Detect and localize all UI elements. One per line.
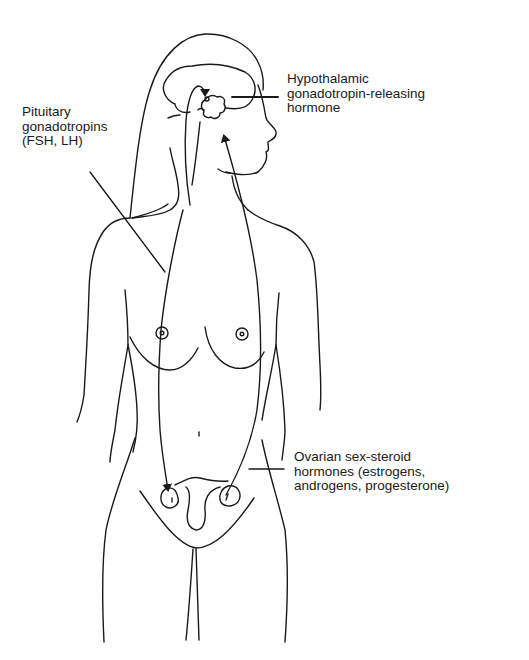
inner-leg-right — [196, 549, 199, 640]
hair-back — [132, 148, 179, 218]
pituitary-leader-line — [90, 172, 165, 272]
right-torso-side — [276, 293, 285, 460]
label-line: androgens, progesterone) — [294, 479, 449, 494]
ovary-to-hypothalamus-arrow — [224, 136, 260, 495]
left-hip-leg — [103, 438, 135, 642]
left-shoulder — [77, 218, 130, 422]
hormone-axis-diagram: Hypothalamic gonadotropin-releasing horm… — [0, 0, 529, 660]
right-areola — [236, 328, 248, 340]
label-line: hormones (estrogens, — [294, 465, 449, 480]
ovarian-hormones-label: Ovarian sex-steroid hormones (estrogens,… — [294, 450, 449, 494]
face-profile — [226, 85, 276, 175]
body-outline-figure — [0, 0, 529, 660]
uterus — [175, 477, 228, 530]
label-line: Ovarian sex-steroid — [294, 450, 449, 465]
pituitary-descend — [192, 122, 200, 185]
hair-outline — [130, 34, 263, 218]
label-line: gonadotropins — [22, 120, 108, 135]
left-torso-side — [110, 290, 128, 462]
label-line: (FSH, LH) — [22, 134, 108, 149]
right-hip-leg — [262, 440, 287, 642]
brain-outline — [163, 64, 255, 112]
right-breast — [205, 327, 264, 368]
brain-fold — [168, 115, 180, 118]
label-line: Pituitary — [22, 105, 108, 120]
inner-leg-left — [186, 549, 193, 640]
pituitary-dot — [205, 97, 209, 101]
pituitary-gonadotropins-label: Pituitary gonadotropins (FSH, LH) — [22, 105, 108, 149]
pelvic-v — [140, 491, 254, 548]
neck-front — [218, 169, 230, 173]
right-nipple — [240, 332, 244, 336]
label-line: hormone — [287, 101, 425, 116]
right-arm-inner — [262, 345, 276, 420]
left-ovary — [161, 488, 178, 508]
label-line: Hypothalamic — [287, 72, 425, 87]
label-line: gonadotropin-releasing — [287, 87, 425, 102]
left-areola — [156, 327, 168, 339]
pituitary-to-ovary-arrow — [159, 210, 183, 490]
hypothalamic-hormone-label: Hypothalamic gonadotropin-releasing horm… — [287, 72, 425, 116]
left-arm-inner — [128, 345, 137, 452]
left-breast — [130, 337, 198, 370]
